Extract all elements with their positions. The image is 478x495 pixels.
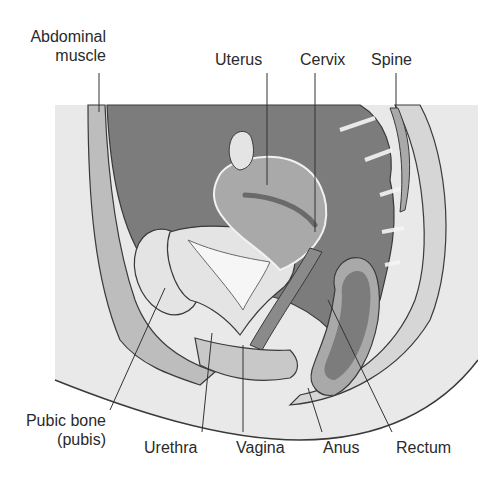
label-pubic-bone-line1: Pubic bone [5,411,106,430]
label-abdominal-muscle-line2: muscle [10,46,106,65]
label-cervix: Cervix [300,50,345,69]
label-abdominal-muscle: Abdominal muscle [10,27,106,65]
ovary-fallopian-tube [229,131,253,170]
label-abdominal-muscle-line1: Abdominal [10,27,106,46]
label-spine: Spine [371,50,412,69]
label-uterus: Uterus [215,50,262,69]
label-rectum: Rectum [396,438,451,457]
label-pubic-bone-line2: (pubis) [5,430,106,449]
label-vagina: Vagina [236,438,285,457]
label-urethra: Urethra [144,438,197,457]
label-anus: Anus [323,438,359,457]
label-pubic-bone: Pubic bone (pubis) [5,411,106,449]
